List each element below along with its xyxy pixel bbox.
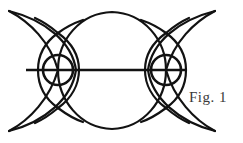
left-lens-right-arc-lower-tail xyxy=(35,108,58,123)
left-lens-left-arc-upper-tail xyxy=(58,20,83,33)
left-lens-left-arc-lower-tail xyxy=(58,108,83,122)
figure-caption: Fig. 1 xyxy=(189,89,227,106)
right-lens-left-arc-lower-tail xyxy=(166,108,189,123)
figure-container: Fig. 1 xyxy=(0,0,243,143)
right-lens-right-arc-upper-tail xyxy=(141,20,166,33)
right-lens-left-arc-upper-tail xyxy=(166,18,189,33)
geometric-figure-diagram xyxy=(0,0,243,143)
right-lens-right-arc-lower-tail xyxy=(141,108,166,122)
left-lens-right-arc-upper-tail xyxy=(35,18,58,33)
